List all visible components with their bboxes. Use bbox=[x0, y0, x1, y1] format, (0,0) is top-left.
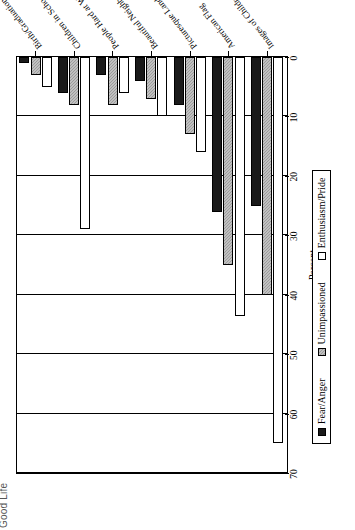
bar[interactable] bbox=[174, 57, 184, 105]
bar[interactable] bbox=[223, 57, 233, 265]
bar[interactable] bbox=[119, 57, 129, 93]
bar[interactable] bbox=[262, 57, 272, 295]
axis-tick-label: 20 bbox=[289, 172, 299, 182]
legend-item-unimpassioned[interactable]: Unimpassioned bbox=[316, 282, 327, 356]
bar-group bbox=[210, 57, 249, 473]
plot-area bbox=[16, 56, 288, 474]
legend-swatch-icon bbox=[318, 252, 326, 260]
axis-tick-label: 60 bbox=[289, 410, 299, 420]
legend-swatch-icon bbox=[318, 348, 326, 356]
legend-label: Unimpassioned bbox=[316, 282, 327, 344]
bar[interactable] bbox=[251, 57, 261, 206]
figure: Good Life Images of ChildrenAmerican Fla… bbox=[0, 0, 355, 530]
bar[interactable] bbox=[273, 57, 283, 443]
axis-tick-label: 50 bbox=[289, 350, 299, 360]
bar-group bbox=[171, 57, 210, 473]
bar-group bbox=[248, 57, 287, 473]
bar[interactable] bbox=[108, 57, 118, 105]
bar[interactable] bbox=[185, 57, 195, 134]
value-axis-tick-labels: 010203040506070 bbox=[289, 56, 305, 474]
axis-tick-label: 40 bbox=[289, 291, 299, 301]
category-axis-label: Birth/Graduation/Wedding bbox=[0, 0, 44, 51]
legend-label: Enthusiasm/Pride bbox=[316, 178, 327, 249]
legend-item-fear-anger[interactable]: Fear/Anger bbox=[316, 378, 327, 436]
bar[interactable] bbox=[31, 57, 41, 75]
bar-group bbox=[94, 57, 133, 473]
axis-tick-label: 70 bbox=[289, 469, 299, 479]
chart-page: Good Life Images of ChildrenAmerican Fla… bbox=[0, 0, 355, 530]
legend-item-enthusiasm-pride[interactable]: Enthusiasm/Pride bbox=[316, 178, 327, 261]
bar[interactable] bbox=[196, 57, 206, 152]
chart-legend: Fear/Anger Unimpassioned Enthusiasm/Prid… bbox=[312, 170, 331, 444]
axis-tick-label: 0 bbox=[289, 56, 299, 61]
bar[interactable] bbox=[135, 57, 145, 81]
bar-group bbox=[56, 57, 95, 473]
bar[interactable] bbox=[19, 57, 29, 63]
category-axis-label: American Flag bbox=[196, 3, 237, 51]
bar[interactable] bbox=[80, 57, 90, 229]
bar[interactable] bbox=[157, 57, 167, 116]
bar[interactable] bbox=[69, 57, 79, 105]
legend-label: Fear/Anger bbox=[316, 378, 327, 424]
axis-tick-label: 10 bbox=[289, 113, 299, 123]
rotated-figure-wrapper: Good Life Images of ChildrenAmerican Fla… bbox=[0, 0, 355, 530]
bar-group bbox=[17, 57, 56, 473]
bar-group bbox=[133, 57, 172, 473]
bar[interactable] bbox=[42, 57, 52, 87]
chart-title: Good Life bbox=[0, 483, 9, 528]
bar[interactable] bbox=[146, 57, 156, 99]
legend-swatch-icon bbox=[318, 428, 326, 436]
axis-tick-label: 30 bbox=[289, 232, 299, 242]
bar[interactable] bbox=[212, 57, 222, 212]
bar[interactable] bbox=[58, 57, 68, 93]
bar[interactable] bbox=[96, 57, 106, 75]
bar[interactable] bbox=[235, 57, 245, 316]
category-axis-labels: Images of ChildrenAmerican FlagPicturesq… bbox=[16, 0, 316, 56]
